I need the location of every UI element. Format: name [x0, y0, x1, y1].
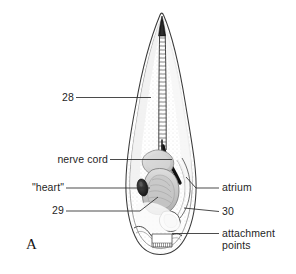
- label-attachment-points: attachment points: [222, 228, 294, 251]
- label-gill-number: 30: [222, 206, 262, 218]
- label-endostyle-number: 29: [30, 205, 64, 217]
- figure-panel-a: 28 nerve cord "heart" 29 atrium 30 attac…: [0, 0, 296, 274]
- attachment-papillae: [152, 234, 172, 247]
- label-atrium: atrium: [222, 182, 292, 194]
- label-nerve-cord: nerve cord: [8, 154, 108, 166]
- label-heart: "heart": [8, 182, 64, 194]
- attachment-patch: [152, 234, 172, 247]
- panel-letter: A: [26, 236, 50, 253]
- label-notochord-number: 28: [38, 92, 74, 104]
